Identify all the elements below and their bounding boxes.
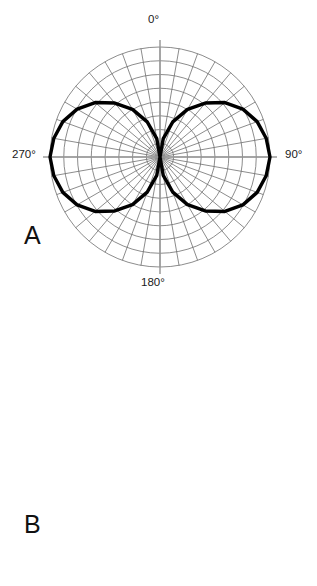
panel-a-label-0deg: 0° xyxy=(148,14,159,26)
panel-a-label-90deg: 90° xyxy=(285,149,302,161)
panel-b-letter: B xyxy=(24,512,41,537)
panel-a-letter: A xyxy=(24,223,41,248)
panel-a-label-270deg: 270° xyxy=(12,149,36,161)
panel-a-label-180deg: 180° xyxy=(141,277,165,289)
panel-b: 90° 60° 60° 30° 30° 0° 0° xyxy=(0,300,317,586)
polar-figure: 0° 90° 180° 270° xyxy=(0,0,317,586)
panel-a: 0° 90° 180° 270° xyxy=(0,0,317,300)
panel-a-polar-plot xyxy=(0,0,317,300)
